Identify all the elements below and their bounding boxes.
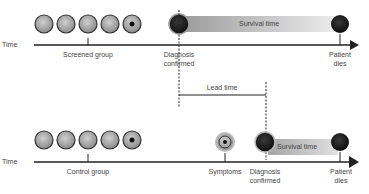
control-cells xyxy=(35,131,141,149)
diagnosis-label-line1: Diagnosis xyxy=(164,51,195,59)
screened-group-label: Screened group xyxy=(63,51,113,59)
cell-icon xyxy=(79,15,97,33)
death-label-line2: dies xyxy=(335,177,348,185)
nucleus-icon xyxy=(130,138,135,143)
death-icon xyxy=(331,133,349,151)
symptoms-label: Symptoms xyxy=(208,168,241,176)
screened-row xyxy=(34,14,359,50)
tumor-diagnosis-icon xyxy=(255,132,275,152)
cell-icon xyxy=(35,131,53,149)
death-label-line2: dies xyxy=(334,60,347,68)
time-axis-label: Time xyxy=(2,158,17,166)
arrowhead-icon xyxy=(349,156,359,168)
death-label-line1: Patient xyxy=(329,51,351,59)
arrowhead-icon xyxy=(350,40,359,50)
control-group-label: Control group xyxy=(67,168,109,176)
cell-icon xyxy=(101,15,119,33)
screened-cells xyxy=(35,15,141,33)
cell-icon xyxy=(35,15,53,33)
death-icon xyxy=(331,15,349,33)
diagnosis-label-line2: confirmed xyxy=(250,177,281,185)
cell-icon xyxy=(57,15,75,33)
cell-icon xyxy=(57,131,75,149)
diagnosis-label-line1: Diagnosis xyxy=(250,168,281,176)
time-axis-label: Time xyxy=(2,41,17,49)
diagnosis-label-line2: confirmed xyxy=(164,60,195,68)
cell-icon xyxy=(101,131,119,149)
survival-time-label: Survival time xyxy=(277,143,317,151)
lead-time-label: Lead time xyxy=(207,84,238,92)
nucleus-icon xyxy=(223,140,227,144)
diagram-canvas xyxy=(0,0,369,194)
cell-icon xyxy=(79,131,97,149)
nucleus-icon xyxy=(130,22,135,27)
death-label-line1: Patient xyxy=(330,168,352,176)
survival-time-label: Survival time xyxy=(239,20,279,28)
